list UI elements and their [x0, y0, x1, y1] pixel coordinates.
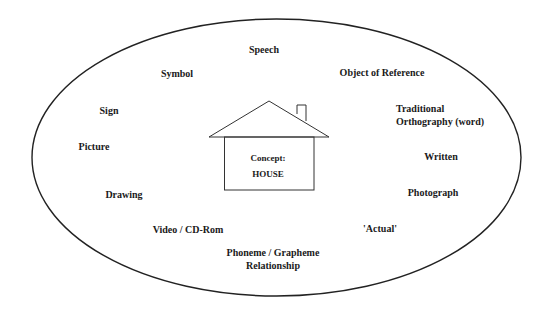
- label-video-cd-rom: Video / CD-Rom: [153, 223, 224, 236]
- concept-value: HOUSE: [252, 168, 284, 181]
- label-traditional-orthography-line2: Orthography (word): [396, 115, 484, 128]
- concept-label: Concept:: [251, 152, 286, 165]
- label-speech: Speech: [249, 43, 279, 56]
- label-object-of-reference: Object of Reference: [340, 66, 425, 79]
- house-roof: [209, 101, 329, 137]
- label-picture: Picture: [79, 140, 110, 153]
- label-phoneme-grapheme-line2: Relationship: [227, 259, 320, 272]
- label-symbol: Symbol: [161, 67, 193, 80]
- label-written: Written: [424, 150, 458, 163]
- label-sign: Sign: [100, 104, 119, 117]
- label-photograph: Photograph: [408, 186, 459, 199]
- label-traditional-orthography: Traditional Orthography (word): [396, 102, 484, 128]
- label-drawing: Drawing: [105, 188, 142, 201]
- label-phoneme-grapheme-line1: Phoneme / Grapheme: [227, 246, 320, 259]
- label-phoneme-grapheme: Phoneme / Grapheme Relationship: [227, 246, 320, 272]
- label-actual: 'Actual': [363, 222, 397, 235]
- label-traditional-orthography-line1: Traditional: [396, 102, 484, 115]
